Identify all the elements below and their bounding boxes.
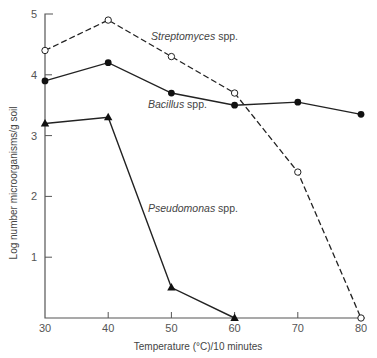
filled-circle-marker: [168, 90, 175, 97]
x-tick-label: 30: [39, 322, 51, 334]
series-group: [41, 17, 365, 321]
open-circle-marker: [231, 90, 237, 96]
series-label-streptomyces: Streptomyces spp.: [151, 30, 238, 42]
filled-circle-marker: [231, 102, 238, 109]
filled-circle-marker: [358, 111, 365, 118]
x-tick-label: 60: [228, 322, 240, 334]
open-circle-marker: [42, 47, 48, 53]
filled-triangle-marker: [167, 283, 175, 291]
open-circle-marker: [105, 17, 111, 23]
line-chart: 12345304050607080 Streptomyces spp. Baci…: [0, 0, 377, 358]
series-line: [45, 20, 361, 318]
filled-circle-marker: [105, 59, 112, 66]
series-pseudomonas: [41, 113, 239, 321]
y-tick-label: 2: [31, 190, 37, 202]
axis-lines: [45, 14, 365, 318]
y-tick-label: 4: [31, 69, 37, 81]
open-circle-marker: [358, 315, 364, 321]
x-tick-label: 80: [355, 322, 367, 334]
series-label-pseudomonas: Pseudomonas spp.: [148, 202, 238, 214]
axes: 12345304050607080: [31, 8, 367, 334]
x-tick-label: 70: [292, 322, 304, 334]
filled-triangle-marker: [104, 113, 112, 121]
series-line: [45, 117, 235, 318]
y-axis-label: Log number microorganisms/g soil: [8, 107, 19, 260]
y-tick-label: 1: [31, 251, 37, 263]
open-circle-marker: [295, 169, 301, 175]
filled-circle-marker: [294, 99, 301, 106]
y-tick-label: 3: [31, 130, 37, 142]
open-circle-marker: [168, 53, 174, 59]
x-tick-label: 40: [102, 322, 114, 334]
x-tick-label: 50: [165, 322, 177, 334]
x-axis-label: Temperature (°C)/10 minutes: [134, 341, 263, 352]
series-label-bacillus: Bacillus spp.: [148, 98, 207, 110]
filled-circle-marker: [42, 77, 49, 84]
y-tick-label: 5: [31, 8, 37, 20]
series-streptomyces: [42, 17, 364, 321]
